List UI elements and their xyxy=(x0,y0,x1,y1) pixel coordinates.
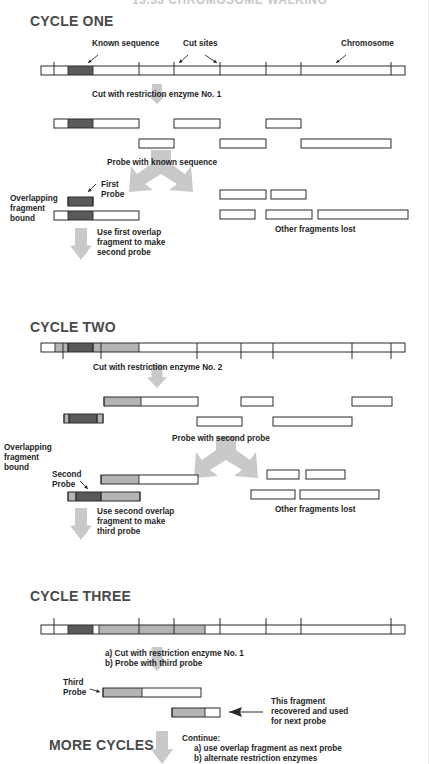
first-probe-label-line1: First xyxy=(101,180,119,189)
cycle-two-cut-step-label: Cut with restriction enzyme No. 2 xyxy=(93,363,222,372)
cycle-one-use-label-line2: fragment to make xyxy=(97,238,165,247)
cycle-two-overlap-label-line3: bound xyxy=(4,463,29,472)
cycle-two-next-arrow-icon xyxy=(70,508,92,540)
cycle-one-probe-step-label: Probe with known sequence xyxy=(107,158,217,167)
cycle-two-overlap-label-line1: Overlapping xyxy=(4,443,52,452)
second-probe-fragment-segment xyxy=(69,414,97,423)
cycle-three-chromosome-bar-bg xyxy=(41,625,405,634)
second-probe-label-line1: Second xyxy=(52,470,82,479)
recovered-fragment-segment xyxy=(172,708,205,717)
lost-fragment-bg xyxy=(266,210,312,219)
known-sequence-label: Known sequence xyxy=(92,39,159,48)
cut-sites-label: Cut sites xyxy=(183,39,218,48)
cycle-three-heading: CYCLE THREE xyxy=(30,588,131,604)
cycle-one-overlap-label-line3: bound xyxy=(10,214,35,223)
fragment-bg xyxy=(174,119,220,128)
fragment-bg xyxy=(241,397,273,406)
third-probe-label-line2: Probe xyxy=(63,688,86,697)
cycle-one-chromosome-bar-segment xyxy=(68,66,93,75)
lost-fragment-bg xyxy=(220,190,266,199)
chromosome-label: Chromosome xyxy=(341,39,394,48)
cycle-two-overlap-label-line2: fragment xyxy=(4,453,39,462)
chromosome-walking-diagram: 13.33 CHROMOSOME WALKING CYCLE ONE Known… xyxy=(0,0,430,764)
cycle-one-probe-split-arrow-icon xyxy=(129,150,193,192)
cycle-two-heading: CYCLE TWO xyxy=(30,319,116,335)
cycle-three-chromosome-bar-segment xyxy=(99,625,205,634)
fragment-bg xyxy=(301,139,391,148)
cycle-three-step-b-label: b) Probe with third probe xyxy=(105,659,202,668)
third-probe-segment xyxy=(103,688,142,697)
lost-fragment-bg xyxy=(271,190,306,199)
lost-fragment-bg xyxy=(318,210,408,219)
lost-fragment-bg xyxy=(300,490,379,499)
page-edge-divider xyxy=(428,0,429,764)
cycle-one-cut-step-label: Cut with restriction enzyme No. 1 xyxy=(92,90,221,99)
cycle-two-use-label-line3: third probe xyxy=(97,527,140,536)
cycle-one-lost-label: Other fragments lost xyxy=(275,225,356,234)
cycle-one-use-label-line1: Use first overlap xyxy=(97,228,161,237)
fragment-bg xyxy=(139,139,174,148)
cycle-three-chromosome-bar-segment xyxy=(68,625,93,634)
fragment-bg xyxy=(273,417,352,426)
figure-title: 13.33 CHROMOSOME WALKING xyxy=(132,0,327,8)
overlapping-fragment-bound-bg xyxy=(54,211,139,220)
fragment-bg xyxy=(197,417,242,426)
more-cycles-heading: MORE CYCLES xyxy=(49,737,154,753)
fragment-bg xyxy=(266,119,301,128)
recovered-label-line2: recovered and used xyxy=(271,707,348,716)
cycle-two-use-label-line1: Use second overlap xyxy=(97,507,174,516)
lost-fragment-bg xyxy=(220,210,255,219)
overlapping-fragment-bound-segment xyxy=(101,475,139,484)
overlapping-fragment-bound-segment xyxy=(68,211,93,220)
continue-label: Continue: xyxy=(182,734,220,743)
second-probe-label-line2: Probe xyxy=(52,480,75,489)
cycle-one-next-arrow-icon xyxy=(70,228,92,260)
cycle-one-overlap-label-line2: fragment xyxy=(10,204,45,213)
cycle-two-chromosome-bar-segment xyxy=(93,343,139,352)
cycle-two-chromosome-bar-segment xyxy=(68,343,93,352)
cycle-two-lost-label: Other fragments lost xyxy=(275,505,356,514)
third-probe-label-line1: Third xyxy=(63,678,83,687)
more-cycles-arrow-icon xyxy=(151,731,173,764)
continue-item-b: b) alternate restriction enzymes xyxy=(194,754,317,763)
lost-fragment-bg xyxy=(267,470,299,479)
first-probe-segment xyxy=(68,197,93,206)
second-probe-fragment-segment xyxy=(64,414,69,423)
cycle-two-use-label-line2: fragment to make xyxy=(97,517,165,526)
cycle-one-chromosome-bar-bg xyxy=(41,66,405,75)
recovered-label-line3: for next probe xyxy=(271,717,326,726)
second-probe-fragment-segment xyxy=(97,414,103,423)
fragment-with-known-sequence-segment xyxy=(68,119,93,128)
fragment-with-known-sequence-bg xyxy=(54,119,139,128)
first-probe-label-line2: Probe xyxy=(101,190,124,199)
second-probe-segment xyxy=(68,492,76,501)
continue-item-a: a) use overlap fragment as next probe xyxy=(194,744,342,753)
second-probe-segment xyxy=(101,492,140,501)
cycle-one-use-label-line3: second probe xyxy=(97,248,151,257)
cycle-two-probe-step-label: Probe with second probe xyxy=(172,434,270,443)
fragment-bg xyxy=(352,397,392,406)
fragment-with-second-probe-region-segment xyxy=(104,397,141,406)
second-probe-segment xyxy=(76,492,101,501)
recovered-label-line1: This fragment xyxy=(271,697,325,706)
cycle-one-heading: CYCLE ONE xyxy=(30,13,113,29)
cycle-one-overlap-label-line1: Overlapping xyxy=(10,194,58,203)
lost-fragment-bg xyxy=(251,490,295,499)
fragment-bg xyxy=(220,139,266,148)
cycle-three-step-a-label: a) Cut with restriction enzyme No. 1 xyxy=(105,649,244,658)
lost-fragment-bg xyxy=(306,470,345,479)
cycle-two-chromosome-bar-segment xyxy=(55,343,68,352)
